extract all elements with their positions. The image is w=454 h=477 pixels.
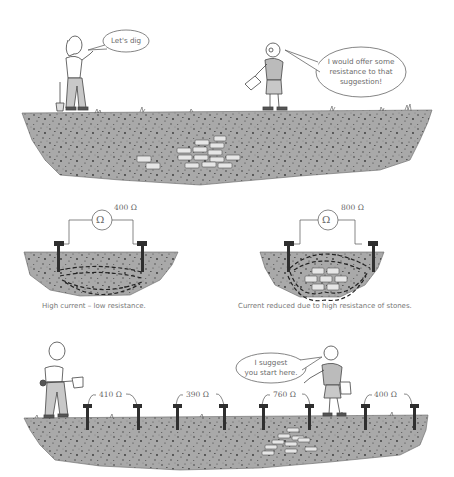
ohm-meter-symbol-left: Ω bbox=[96, 214, 104, 225]
speech-line: you start here. bbox=[238, 368, 304, 378]
caption-right: Current reduced due to high resistance o… bbox=[238, 302, 412, 310]
probe-reading-1: 410 Ω bbox=[99, 390, 122, 399]
woman-figure-bottom bbox=[40, 342, 83, 418]
top-ground bbox=[22, 104, 432, 185]
ohm-meter-symbol-right: Ω bbox=[322, 214, 330, 225]
meter-reading-left: 400 Ω bbox=[114, 203, 137, 212]
meter-reading-right: 800 Ω bbox=[341, 203, 364, 212]
probe-wires-bottom bbox=[88, 394, 412, 405]
probe-reading-3: 760 Ω bbox=[273, 390, 296, 399]
speech-text-resistance: I would offer some resistance to that su… bbox=[318, 57, 404, 87]
speech-line: resistance to that bbox=[318, 67, 404, 77]
speech-text-suggest: I suggest you start here. bbox=[238, 358, 304, 378]
caption-left: High current – low resistance. bbox=[42, 302, 146, 310]
speech-line: I would offer some bbox=[318, 57, 404, 67]
speech-text-lets-dig: Let's dig bbox=[104, 36, 148, 46]
speech-line: I suggest bbox=[238, 358, 304, 368]
probe-reading-2: 390 Ω bbox=[186, 390, 209, 399]
speech-line: suggestion! bbox=[318, 77, 404, 87]
man-figure-top bbox=[245, 43, 287, 110]
woman-figure-top bbox=[56, 36, 93, 111]
probe-reading-4: 400 Ω bbox=[374, 390, 397, 399]
